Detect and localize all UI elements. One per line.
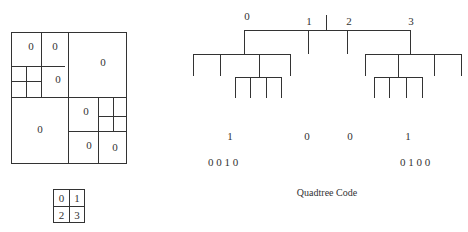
key-cell-3: 3 bbox=[74, 209, 80, 221]
code-level1-0: 1 bbox=[227, 130, 233, 142]
key-cell-2: 2 bbox=[59, 209, 65, 221]
cell-label: 0 bbox=[100, 56, 106, 68]
cell-label: 0 bbox=[28, 40, 34, 52]
code-level1-1: 0 bbox=[304, 130, 310, 142]
quadtree-tree: 0 1 2 3 bbox=[193, 10, 462, 98]
key-cell-0: 0 bbox=[59, 192, 65, 204]
quadrant-key: 0 1 2 3 bbox=[53, 189, 85, 223]
cell-label: 0 bbox=[55, 73, 61, 85]
code-level1-3: 1 bbox=[405, 130, 411, 142]
cell-label: 0 bbox=[112, 141, 118, 153]
quadtree-diagram: 0 0 0 0 0 0 0 0 0 1 2 3 bbox=[0, 0, 468, 232]
code-level2-right: 0 1 0 0 bbox=[400, 156, 431, 168]
tree-label-0: 0 bbox=[244, 10, 250, 22]
cell-label: 0 bbox=[86, 139, 92, 151]
quadtree-code: 1 0 0 1 0 0 1 0 0 1 0 0 Quadtree Code bbox=[208, 130, 431, 198]
quadtree-grid: 0 0 0 0 0 0 0 0 bbox=[11, 32, 127, 164]
code-level2-left: 0 0 1 0 bbox=[208, 156, 239, 168]
cell-label: 0 bbox=[52, 40, 58, 52]
cell-label: 0 bbox=[83, 105, 89, 117]
code-level1-2: 0 bbox=[347, 130, 353, 142]
tree-label-3: 3 bbox=[408, 15, 414, 27]
cell-label: 0 bbox=[37, 123, 43, 135]
tree-label-1: 1 bbox=[306, 15, 312, 27]
tree-label-2: 2 bbox=[346, 15, 352, 27]
code-caption: Quadtree Code bbox=[297, 187, 358, 198]
key-cell-1: 1 bbox=[74, 192, 80, 204]
